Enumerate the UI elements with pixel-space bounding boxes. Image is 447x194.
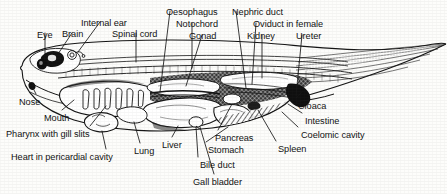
label-oviduct: Oviduct in female: [253, 19, 323, 29]
label-stomach: Stomach: [208, 145, 244, 155]
label-nose: Nose: [19, 97, 40, 107]
label-cloaca: Cloaca: [298, 101, 326, 111]
label-liver: Liver: [162, 140, 182, 150]
label-eye: Eye: [37, 30, 53, 40]
label-spleen: Spleen: [278, 144, 306, 154]
label-intestine: Intestine: [305, 116, 339, 126]
label-nephric-duct: Nephric duct: [232, 7, 283, 17]
label-brain: Brain: [62, 29, 83, 39]
label-heart: Heart in pericardial cavity: [11, 152, 113, 162]
label-lung: Lung: [134, 146, 154, 156]
label-kidney: Kidney: [247, 31, 275, 41]
label-oesophagus: Oesophagus: [166, 7, 218, 17]
label-coelomic: Coelomic cavity: [301, 130, 365, 140]
label-gonad: Gonad: [189, 31, 216, 41]
label-bile-duct: Bile duct: [200, 160, 235, 170]
label-mouth: Mouth: [44, 113, 69, 123]
label-gall-bladder: Gall bladder: [193, 177, 242, 187]
label-ureter: Ureter: [296, 31, 321, 41]
label-pancreas: Pancreas: [215, 133, 253, 143]
label-pharynx: Pharynx with gill slits: [6, 129, 90, 139]
label-spinal-cord: Spinal cord: [112, 29, 157, 39]
label-notochord: Notochord: [176, 19, 218, 29]
label-internal-ear: Internal ear: [81, 18, 127, 28]
